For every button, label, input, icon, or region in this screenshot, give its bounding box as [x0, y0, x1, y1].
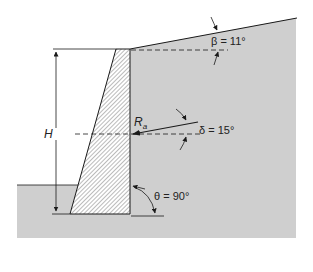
- beta-arrow-upper: [211, 17, 217, 30]
- retaining-wall-diagram: H β = 11° Ra δ = 15° θ = 90°: [0, 0, 313, 272]
- beta-label: β = 11°: [211, 35, 246, 47]
- theta-label: θ = 90°: [154, 190, 189, 202]
- delta-label: δ = 15°: [199, 124, 234, 136]
- height-label: H: [44, 127, 53, 141]
- retaining-wall: [70, 49, 130, 214]
- soil-region: [17, 18, 296, 238]
